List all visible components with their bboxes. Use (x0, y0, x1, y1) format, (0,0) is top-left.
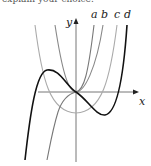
x-axis-arrow-icon (133, 90, 139, 95)
curve-c-label: c (114, 8, 120, 21)
curve-a-label: a (91, 8, 98, 21)
curve-d-label: d (124, 8, 131, 21)
y-axis-arrow-icon (74, 18, 79, 24)
curve-b (55, 25, 103, 92)
curve-b-label: b (101, 8, 108, 21)
y-axis-label: y (65, 16, 73, 29)
x-axis-label: x (139, 95, 146, 108)
function-graph: y x a b c d (0, 0, 151, 166)
